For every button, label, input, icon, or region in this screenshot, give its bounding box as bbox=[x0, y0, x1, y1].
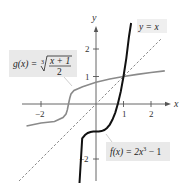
svg-text:x + 1: x + 1 bbox=[49, 56, 70, 66]
svg-text:2: 2 bbox=[57, 67, 62, 77]
svg-text:3: 3 bbox=[41, 59, 44, 65]
x-tick-label-2: 2 bbox=[149, 109, 154, 119]
y-axis-label: y bbox=[91, 12, 97, 23]
x-tick-label-1: 1 bbox=[122, 109, 127, 119]
svg-text:f(x) = 2x3 − 1: f(x) = 2x3 − 1 bbox=[110, 146, 161, 158]
x-tick-label-neg2: −2 bbox=[35, 109, 45, 119]
x-axis-label: x bbox=[173, 98, 179, 109]
identity-label: y = x bbox=[138, 22, 159, 32]
function-inverse-chart: −2 1 2 2 1 −2 x y g(x) = 3 x + 1 2 y = x… bbox=[0, 0, 190, 183]
y-tick-label-2: 2 bbox=[85, 44, 90, 54]
svg-text:g(x) =: g(x) = bbox=[13, 59, 37, 70]
f-leader-line bbox=[106, 134, 112, 142]
y-tick-label-1: 1 bbox=[85, 72, 90, 82]
g-leader-line bbox=[64, 77, 72, 86]
f-label: f(x) = 2x3 − 1 bbox=[110, 146, 161, 158]
